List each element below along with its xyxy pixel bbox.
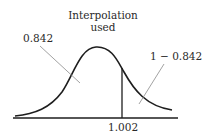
right-area-leader-line: [139, 64, 164, 104]
left-area-label: 0.842: [23, 32, 53, 44]
cutoff-value-label: 1.002: [108, 121, 138, 133]
figure-title: Interpolation used: [68, 9, 138, 33]
title-line-1: Interpolation: [68, 9, 138, 21]
normal-distribution-figure: Interpolation used 0.842 1 − 0.842 1.002: [0, 0, 206, 140]
title-line-2: used: [68, 21, 138, 33]
right-area-label: 1 − 0.842: [150, 50, 202, 62]
bell-curve: [15, 47, 172, 116]
left-area-leader-line: [40, 46, 80, 83]
